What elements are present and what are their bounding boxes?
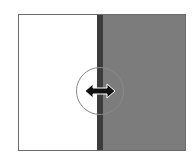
resize-handle[interactable] [76, 67, 124, 115]
split-view-frame [18, 14, 186, 151]
horizontal-double-arrow-icon [84, 82, 116, 100]
